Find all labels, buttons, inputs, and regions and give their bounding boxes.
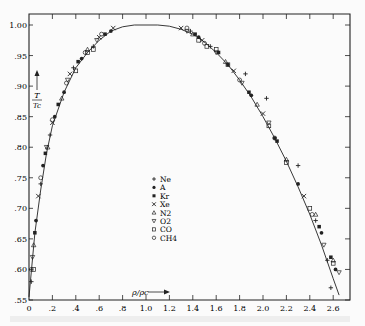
y-tick-label: .80 (14, 143, 27, 152)
y-label-denominator: Tc (33, 102, 41, 110)
legend-label: CH4 (160, 234, 177, 243)
x-tick-label: 1.6 (210, 304, 223, 313)
y-tick-label: .60 (14, 265, 27, 274)
coexistence-chart: 0.2.4.6.81.01.21.41.61.82.02.22.42.6 1.0… (0, 0, 365, 326)
y-tick-label: .85 (14, 113, 27, 122)
x-tick-label: 1.2 (163, 304, 176, 313)
y-tick-label: .75 (14, 174, 27, 183)
x-tick-label: .4 (72, 304, 80, 313)
x-label-text: ρ/ρc (131, 288, 149, 297)
x-tick-label: .8 (119, 304, 127, 313)
x-tick-label: 1.8 (233, 304, 246, 313)
x-tick-label: 2.4 (303, 304, 316, 313)
y-tick-label: .55 (14, 296, 27, 305)
x-tick-label: .6 (95, 304, 103, 313)
x-tick-label: 1.0 (140, 304, 153, 313)
y-label-numerator: T (34, 91, 40, 100)
x-tick-label: 2.0 (257, 304, 270, 313)
x-tick-label: 2.6 (327, 304, 340, 313)
y-tick-label: .95 (14, 52, 27, 61)
y-tick-label: .65 (14, 235, 27, 244)
x-tick-label: 2.2 (280, 304, 293, 313)
x-tick-label: .2 (49, 304, 57, 313)
y-tick-label: .90 (14, 82, 27, 91)
x-tick-label: 1.4 (186, 304, 199, 313)
y-tick-label: .70 (14, 204, 27, 213)
figure-caption (10, 316, 350, 322)
y-tick-label: 1.00 (9, 21, 27, 30)
x-tick-label: 0 (26, 304, 31, 313)
